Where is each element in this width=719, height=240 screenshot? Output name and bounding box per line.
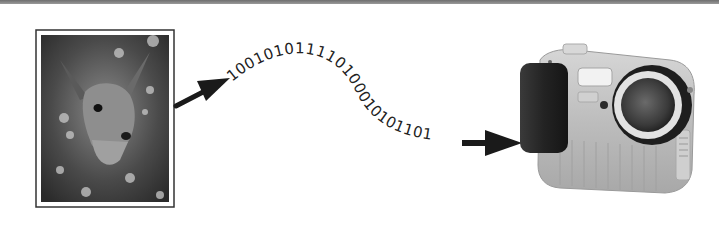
sensor-window <box>578 92 598 102</box>
strap-lug <box>687 87 693 93</box>
camera-grip <box>520 63 568 153</box>
lens-glass <box>621 78 675 132</box>
digital-camera <box>520 44 694 193</box>
arrow-to-camera <box>462 130 522 156</box>
flash-window <box>578 68 612 86</box>
self-timer-lamp <box>600 101 608 109</box>
shutter-button <box>563 44 587 54</box>
binary-stream-text: 100101011110100010101101 <box>223 39 434 143</box>
deer-photo <box>36 30 174 207</box>
binary-stream: 100101011110100010101101 <box>223 39 434 143</box>
arrow-to-binary <box>176 78 230 106</box>
